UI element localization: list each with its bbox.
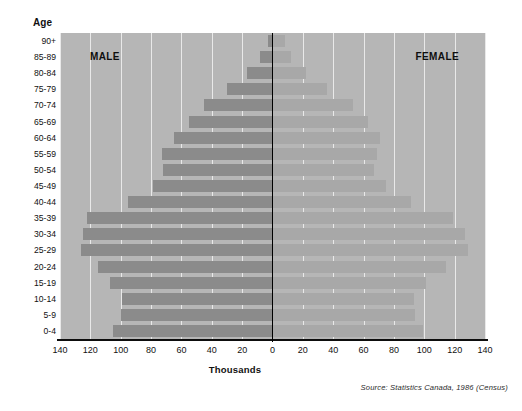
x-axis-title-text: Thousands bbox=[209, 364, 261, 375]
x-axis-title: Thousands bbox=[0, 364, 522, 375]
bar-male bbox=[113, 325, 272, 337]
y-tick-label: 60-64 bbox=[4, 133, 56, 143]
y-tick-label: 0-4 bbox=[4, 326, 56, 336]
y-tick-label: 35-39 bbox=[4, 213, 56, 223]
bar-female bbox=[273, 148, 378, 160]
plot-area: MALE FEMALE bbox=[60, 33, 485, 339]
y-tick-label: 85-89 bbox=[4, 52, 56, 62]
series-label-female: FEMALE bbox=[415, 51, 459, 62]
y-tick-label: 80-84 bbox=[4, 68, 56, 78]
bar-male bbox=[121, 309, 273, 321]
x-axis-tick-labels: 14012010080604020020406080100120140 bbox=[0, 345, 522, 361]
y-tick-label: 40-44 bbox=[4, 197, 56, 207]
bar-male bbox=[260, 51, 272, 63]
bar-male bbox=[122, 293, 272, 305]
bar-female bbox=[273, 132, 381, 144]
bar-female bbox=[273, 83, 328, 95]
bar-male bbox=[163, 164, 272, 176]
y-tick-label: 75-79 bbox=[4, 84, 56, 94]
y-tick-label: 50-54 bbox=[4, 165, 56, 175]
bar-male bbox=[162, 148, 273, 160]
bar-female bbox=[273, 212, 454, 224]
y-tick-label: 55-59 bbox=[4, 149, 56, 159]
bar-female bbox=[273, 67, 306, 79]
series-label-male: MALE bbox=[90, 51, 120, 62]
bar-male bbox=[110, 277, 272, 289]
source-note: Source: Statistics Canada, 1986 (Census) bbox=[361, 383, 508, 392]
bar-female bbox=[273, 293, 414, 305]
y-tick-label: 65-69 bbox=[4, 117, 56, 127]
bar-female bbox=[273, 309, 416, 321]
bar-female bbox=[273, 116, 369, 128]
population-pyramid-chart: Age 90+85-8980-8475-7970-7465-6960-6455-… bbox=[0, 0, 522, 411]
bar-female bbox=[273, 180, 387, 192]
y-tick-label: 15-19 bbox=[4, 278, 56, 288]
bar-female bbox=[273, 196, 411, 208]
gridline bbox=[485, 33, 486, 339]
bar-female bbox=[273, 35, 285, 47]
bar-female bbox=[273, 325, 423, 337]
bar-male bbox=[174, 132, 273, 144]
bar-female bbox=[273, 228, 466, 240]
bar-male bbox=[98, 261, 273, 273]
bar-male bbox=[128, 196, 272, 208]
y-axis-tick-labels: 90+85-8980-8475-7970-7465-6960-6455-5950… bbox=[0, 33, 56, 339]
bar-male bbox=[247, 67, 273, 79]
bar-male bbox=[87, 212, 272, 224]
bar-female bbox=[273, 99, 353, 111]
bar-male bbox=[153, 180, 273, 192]
bar-male bbox=[227, 83, 273, 95]
bar-male bbox=[81, 244, 272, 256]
y-tick-label: 90+ bbox=[4, 36, 56, 46]
bar-female bbox=[273, 261, 446, 273]
y-axis-title: Age bbox=[33, 17, 52, 28]
bar-female bbox=[273, 51, 291, 63]
bar-male bbox=[189, 116, 272, 128]
bar-female bbox=[273, 164, 375, 176]
y-tick-label: 25-29 bbox=[4, 245, 56, 255]
y-tick-label: 70-74 bbox=[4, 100, 56, 110]
bar-male bbox=[83, 228, 273, 240]
bar-female bbox=[273, 277, 426, 289]
y-tick-label: 10-14 bbox=[4, 294, 56, 304]
x-tick-label: 140 bbox=[465, 345, 505, 355]
y-tick-label: 30-34 bbox=[4, 229, 56, 239]
bar-female bbox=[273, 244, 469, 256]
y-tick-label: 20-24 bbox=[4, 262, 56, 272]
y-tick-label: 5-9 bbox=[4, 310, 56, 320]
bar-male bbox=[204, 99, 272, 111]
zero-axis-line bbox=[272, 33, 274, 342]
y-tick-label: 45-49 bbox=[4, 181, 56, 191]
